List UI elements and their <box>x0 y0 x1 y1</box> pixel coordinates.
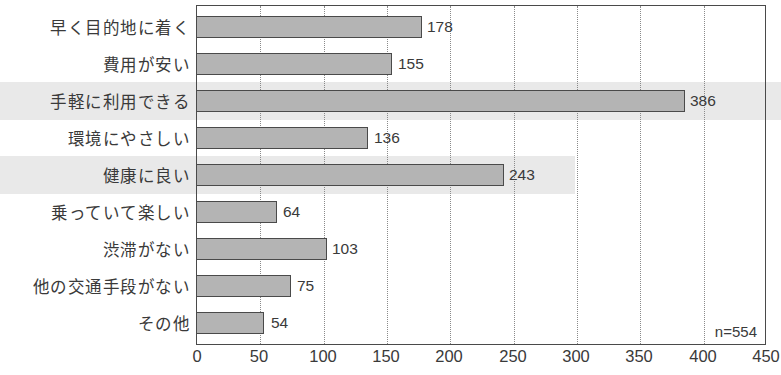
bar <box>196 164 504 186</box>
bar-value-label: 103 <box>332 240 358 258</box>
bar <box>196 90 685 112</box>
bar-value-label: 243 <box>509 166 535 184</box>
bar <box>196 16 422 38</box>
category-label: 早く目的地に着く <box>50 15 190 39</box>
xtick-label: 300 <box>562 347 590 366</box>
xtick-label: 400 <box>689 347 717 366</box>
bar-row: 早く目的地に着く 178 <box>0 8 781 45</box>
bar <box>196 312 264 334</box>
xtick-label: 150 <box>372 347 400 366</box>
bar <box>196 53 392 75</box>
bar-value-label: 136 <box>374 129 400 147</box>
bar-value-label: 75 <box>297 277 314 295</box>
bar-row: その他 54 <box>0 304 781 341</box>
category-label: 環境にやさしい <box>68 126 191 150</box>
bar-value-label: 64 <box>283 203 300 221</box>
xtick-label: 250 <box>499 347 527 366</box>
bar <box>196 238 327 260</box>
category-label: 乗っていて楽しい <box>51 200 190 224</box>
bar-row: 費用が安い 155 <box>0 45 781 82</box>
category-label: その他 <box>138 311 191 335</box>
bar-row: 他の交通手段がない 75 <box>0 267 781 304</box>
category-label: 費用が安い <box>103 52 191 76</box>
category-label: 手軽に利用できる <box>50 89 190 113</box>
bar-value-label: 178 <box>427 18 453 36</box>
xtick-label: 350 <box>625 347 653 366</box>
bar-value-label: 155 <box>398 55 424 73</box>
category-label: 渋滞がない <box>103 237 191 261</box>
bar-row: 渋滞がない 103 <box>0 230 781 267</box>
xtick-label: 100 <box>309 347 337 366</box>
bar <box>196 201 277 223</box>
xtick-label: 450 <box>752 347 780 366</box>
bar <box>196 275 291 297</box>
horizontal-bar-chart: n=554 早く目的地に着く 178 費用が安い 155 手軽に利用できる 38… <box>0 0 781 375</box>
category-label: 他の交通手段がない <box>33 274 191 298</box>
bar-row: 手軽に利用できる 386 <box>0 82 781 119</box>
xtick-label: 0 <box>192 347 201 366</box>
bar-value-label: 54 <box>271 314 288 332</box>
bar-value-label: 386 <box>690 92 716 110</box>
bar-row: 健康に良い 243 <box>0 156 781 193</box>
bar <box>196 127 368 149</box>
category-label: 健康に良い <box>103 163 191 187</box>
bar-row: 乗っていて楽しい 64 <box>0 193 781 230</box>
xtick-label: 200 <box>435 347 463 366</box>
xtick-label: 50 <box>250 347 268 366</box>
bar-row: 環境にやさしい 136 <box>0 119 781 156</box>
